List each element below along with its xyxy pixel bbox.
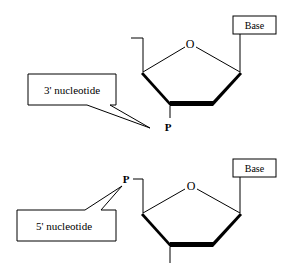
callout-5prime: [17, 186, 122, 241]
bond-c4-o-top: [143, 47, 185, 72]
c5-stub-top: [131, 38, 143, 72]
phosphate-label-bottom: P: [123, 173, 130, 185]
wedge-c4-c3-top: [141, 72, 170, 106]
phosphate-label-top: P: [165, 121, 172, 133]
base-label-top: Base: [245, 20, 265, 31]
callout-3prime: [28, 74, 150, 128]
ring-oxygen-bottom: O: [187, 179, 196, 193]
bottom-nucleotide: P O Base 5' nucleotide: [17, 159, 276, 263]
wedge-c4-c3-bottom: [141, 213, 170, 247]
top-nucleotide: O Base P 3' nucleotide: [28, 16, 276, 133]
wedge-c2-c1-bottom: [213, 213, 242, 247]
bold-c3-c2-bottom: [170, 242, 213, 247]
bond-o-c1-top: [196, 47, 240, 72]
callout-3prime-label: 3' nucleotide: [44, 84, 100, 96]
nucleotide-diagram: O Base P 3' nucleotide P O Base 5' nucle…: [0, 0, 305, 279]
ring-oxygen-top: O: [186, 37, 195, 51]
bold-c3-c2-top: [170, 101, 213, 106]
wedge-c2-c1-top: [213, 72, 242, 106]
base-label-bottom: Base: [245, 163, 265, 174]
callout-5prime-label: 5' nucleotide: [36, 220, 92, 232]
bond-o-c1-bottom: [197, 189, 240, 213]
c5-link-bottom: [133, 179, 143, 213]
bond-c4-o-bottom: [143, 189, 185, 213]
